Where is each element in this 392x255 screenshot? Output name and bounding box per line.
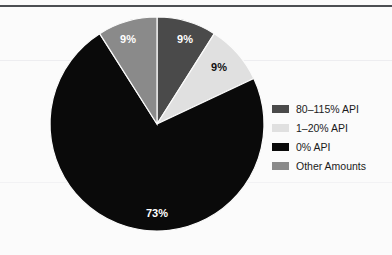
pie-slice-value-label: 9% [120,33,136,45]
pie-chart-figure: 9%9%73%9% 80–115% API 1–20% API 0% API O… [0,0,392,255]
legend-item[interactable]: 0% API [272,138,390,156]
legend-swatch-1-20-api [272,124,289,132]
pie-slice-value-label: 9% [177,33,193,45]
legend-swatch-80-115-api [272,105,289,113]
legend-item[interactable]: Other Amounts [272,157,390,175]
pie-slice-value-label: 73% [146,207,168,219]
chart-legend: 80–115% API 1–20% API 0% API Other Amoun… [272,100,390,176]
legend-label: 80–115% API [296,104,359,115]
legend-item[interactable]: 1–20% API [272,119,390,137]
legend-label: Other Amounts [296,161,366,172]
legend-label: 1–20% API [296,123,348,134]
legend-swatch-0-api [272,143,289,151]
legend-item[interactable]: 80–115% API [272,100,390,118]
legend-label: 0% API [296,142,330,153]
legend-swatch-other-amounts [272,162,289,170]
pie-slice-value-label: 9% [211,61,227,73]
pie-slice-group [50,17,264,231]
